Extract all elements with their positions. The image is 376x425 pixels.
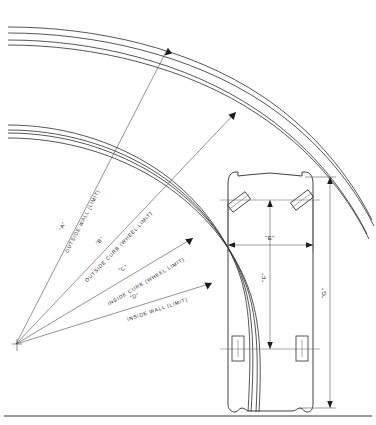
dimension-F: "F" [261, 200, 273, 349]
radius-label-B-key: "B" [94, 235, 105, 246]
dimension-F-label: "F" [261, 272, 267, 282]
radius-label-A-key: "A" [58, 221, 67, 232]
radius-center-mark [12, 339, 22, 351]
dimension-G-label: "G" [321, 288, 327, 299]
vehicle-body [228, 172, 313, 412]
radius-label-A: "A" OUTSIDE WALL (LIMIT) [58, 188, 101, 253]
radius-label-B: "B" OUTSIDE CURB (WHEEL LIMIT) [84, 210, 154, 283]
arc-outside-wall-limit [8, 27, 374, 226]
front-left-wheel [227, 192, 250, 213]
dimension-G: "G" [300, 177, 336, 408]
radius-label-C: "C" INSIDE CURB (WHEEL LIMIT) [106, 256, 185, 307]
radius-line-C [16, 238, 193, 344]
radius-label-C-key: "C" [117, 263, 128, 273]
drawing-sheet: "A" OUTSIDE WALL (LIMIT) "B" OUTSIDE CUR… [0, 0, 376, 425]
radius-label-C-text: INSIDE CURB (WHEEL LIMIT) [106, 256, 185, 307]
arc-inside-wall-limit [8, 125, 253, 412]
radius-line-B [16, 112, 236, 344]
rear-right-wheel [296, 336, 308, 361]
rear-left-wheel [232, 336, 244, 361]
dimension-E: "E" [228, 200, 313, 252]
arc-inside-curb-wheel-limit [8, 133, 260, 412]
radius-label-B-text: OUTSIDE CURB (WHEEL LIMIT) [84, 210, 154, 283]
turning-radius-diagram: "A" OUTSIDE WALL (LIMIT) "B" OUTSIDE CUR… [0, 0, 376, 425]
